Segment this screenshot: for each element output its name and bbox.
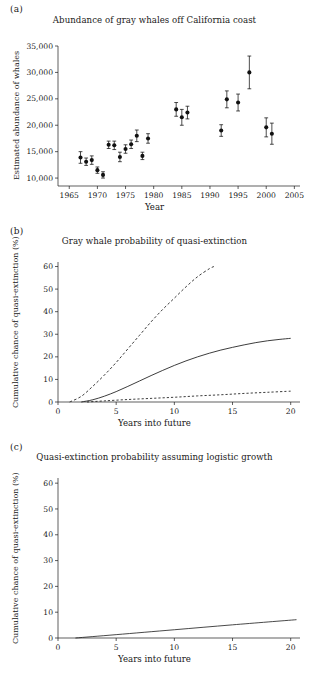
panel-c-plot: 010203040506005101520 <box>0 438 309 674</box>
svg-text:15: 15 <box>228 407 238 416</box>
svg-text:15,000: 15,000 <box>26 147 53 156</box>
svg-text:5: 5 <box>114 643 119 652</box>
svg-text:30,000: 30,000 <box>26 68 53 77</box>
svg-text:2000: 2000 <box>257 191 276 200</box>
svg-text:10: 10 <box>170 643 180 652</box>
svg-text:60: 60 <box>43 262 53 271</box>
svg-text:20: 20 <box>286 643 296 652</box>
svg-text:10,000: 10,000 <box>26 174 53 183</box>
panel-c: (c) Quasi-extinction probability assumin… <box>0 438 309 674</box>
svg-text:40: 40 <box>43 530 53 539</box>
svg-text:0: 0 <box>48 634 53 643</box>
panel-b-plot: 010203040506005101520 <box>0 222 309 438</box>
svg-text:15: 15 <box>228 643 238 652</box>
svg-text:1990: 1990 <box>200 191 219 200</box>
svg-text:1965: 1965 <box>60 191 79 200</box>
panel-c-curve <box>75 620 296 638</box>
panel-a: (a) Abundance of gray whales off Califor… <box>0 0 309 222</box>
svg-text:25,000: 25,000 <box>26 94 53 103</box>
svg-text:0: 0 <box>56 407 61 416</box>
svg-text:1985: 1985 <box>172 191 191 200</box>
svg-text:1995: 1995 <box>228 191 247 200</box>
svg-text:50: 50 <box>43 505 53 514</box>
svg-text:30: 30 <box>43 556 53 565</box>
svg-text:2005: 2005 <box>285 191 304 200</box>
svg-text:60: 60 <box>43 479 53 488</box>
svg-text:0: 0 <box>56 643 61 652</box>
svg-text:20: 20 <box>43 582 53 591</box>
svg-text:1980: 1980 <box>144 191 163 200</box>
svg-text:10: 10 <box>43 375 53 384</box>
panel-b: (b) Gray whale probability of quasi-exti… <box>0 222 309 438</box>
svg-text:1975: 1975 <box>116 191 135 200</box>
panel-b-curves <box>70 267 291 402</box>
panel-a-plot: 10,00015,00020,00025,00030,00035,0001965… <box>0 0 309 222</box>
svg-text:20: 20 <box>43 352 53 361</box>
svg-text:0: 0 <box>48 398 53 407</box>
panel-a-data-points <box>78 56 273 178</box>
svg-text:1970: 1970 <box>88 191 107 200</box>
svg-text:10: 10 <box>170 407 180 416</box>
svg-text:40: 40 <box>43 307 53 316</box>
svg-text:20: 20 <box>286 407 296 416</box>
svg-text:5: 5 <box>114 407 119 416</box>
svg-text:30: 30 <box>43 330 53 339</box>
svg-text:10: 10 <box>43 608 53 617</box>
svg-text:35,000: 35,000 <box>26 42 53 51</box>
svg-text:50: 50 <box>43 285 53 294</box>
svg-text:20,000: 20,000 <box>26 121 53 130</box>
